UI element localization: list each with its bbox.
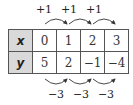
table-cell: 0 [33, 30, 57, 52]
row-header-x: x [9, 30, 33, 52]
table-cell: 5 [33, 52, 57, 74]
table-cell: −1 [81, 52, 105, 74]
y-decrement-label: −3 [69, 89, 93, 101]
row-header-y: y [9, 52, 33, 74]
x-increment-label: +1 [32, 4, 56, 16]
table-cell: 3 [105, 30, 129, 52]
table-cell: 2 [81, 30, 105, 52]
values-table: x 0 1 2 3 y 5 2 −1 −4 [8, 29, 129, 74]
x-increment-label: +1 [82, 4, 106, 16]
table-cell: −4 [105, 52, 129, 74]
table-row-x: x 0 1 2 3 [9, 30, 129, 52]
x-increment-label: +1 [57, 4, 81, 16]
table-cell: 2 [57, 52, 81, 74]
y-decrement-label: −3 [94, 89, 118, 101]
y-decrement-label: −3 [44, 89, 68, 101]
table-row-y: y 5 2 −1 −4 [9, 52, 129, 74]
bottom-arrow-icons [45, 79, 115, 84]
top-arrow-icons [45, 19, 115, 24]
table-cell: 1 [57, 30, 81, 52]
table-diagram: +1 +1 +1 x 0 1 2 3 y [0, 0, 133, 105]
